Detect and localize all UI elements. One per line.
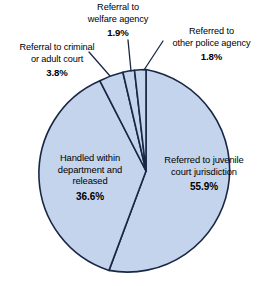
slice-label-handled-within-department: Handled within department and released 3… — [38, 152, 142, 202]
juvenile-percent: 55.9% — [146, 181, 262, 193]
callout-police-line2: other police agency — [154, 38, 269, 50]
leader-line-welfare-agency — [128, 40, 131, 71]
handled-line3: released — [38, 175, 142, 187]
handled-percent: 36.6% — [38, 191, 142, 203]
slice-label-juvenile-court: Referred to juvenile court jurisdiction … — [146, 154, 262, 193]
handled-line2: department and — [38, 164, 142, 176]
callout-criminal-line1: Referral to criminal — [0, 42, 116, 54]
callout-criminal-line2: or adult court — [0, 54, 116, 66]
handled-line1: Handled within — [38, 152, 142, 164]
callout-welfare-line1: Referral to — [63, 2, 173, 14]
callout-welfare-line2: welfare agency — [63, 14, 173, 26]
callout-label-criminal-adult-court: Referral to criminal or adult court 3.8% — [0, 42, 116, 79]
juvenile-line1: Referred to juvenile — [146, 154, 262, 166]
callout-criminal-percent: 3.8% — [0, 67, 116, 79]
callout-police-percent: 1.8% — [154, 51, 269, 63]
callout-police-line1: Referred to — [154, 26, 269, 38]
pie-chart-figure: Referral to welfare agency 1.9% Referred… — [0, 0, 271, 286]
callout-label-other-police-agency: Referred to other police agency 1.8% — [154, 26, 269, 63]
juvenile-line2: court jurisdiction — [146, 166, 262, 178]
